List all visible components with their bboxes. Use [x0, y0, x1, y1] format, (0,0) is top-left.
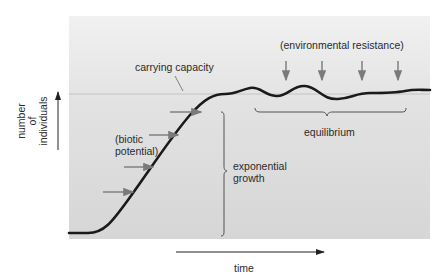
y-axis-label-line3: individuals — [38, 96, 49, 145]
environmental-resistance-label: (environmental resistance) — [280, 39, 404, 51]
exponential-growth-label-line2: growth — [233, 172, 265, 184]
exponential-growth-brace — [221, 112, 227, 236]
y-axis-label: number of individuals — [2, 86, 62, 156]
biotic-potential-label-line1: (biotic — [115, 133, 143, 145]
carrying-capacity-pointer — [175, 76, 183, 91]
carrying-capacity-label: carrying capacity — [135, 61, 214, 73]
biotic-potential-label-line2: potential) — [115, 145, 158, 157]
equilibrium-label: equilibrium — [304, 126, 355, 138]
exponential-growth-label-line1: exponential — [233, 160, 287, 172]
x-axis-label: time — [234, 262, 254, 274]
equilibrium-brace — [255, 108, 406, 116]
